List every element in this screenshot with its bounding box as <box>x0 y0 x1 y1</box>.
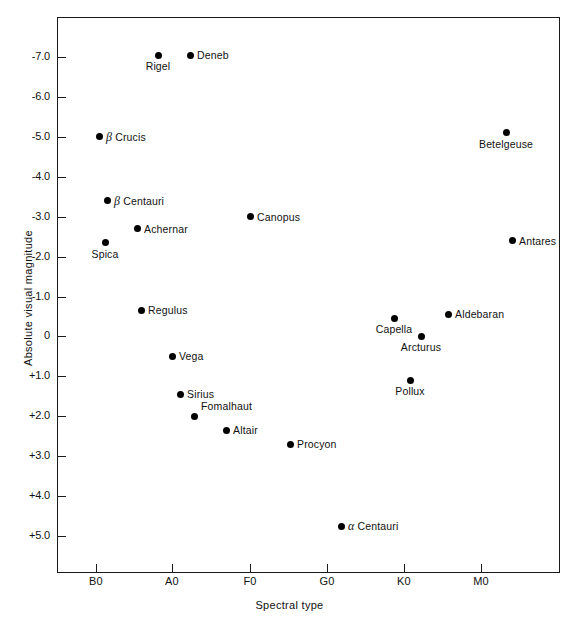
y-tick <box>57 97 66 98</box>
y-tick <box>57 177 66 178</box>
data-point-label: α Centauri <box>348 521 398 532</box>
y-tick-label: -4.0 <box>6 171 50 182</box>
y-tick <box>57 456 66 457</box>
data-point-label: Achernar <box>144 224 188 235</box>
data-point-label: Altair <box>233 425 258 436</box>
data-point <box>96 133 103 140</box>
y-axis-title: Absolute visual magnitude <box>22 230 34 366</box>
data-point <box>191 413 198 420</box>
y-tick <box>57 297 66 298</box>
x-tick <box>250 564 251 573</box>
x-tick <box>96 564 97 573</box>
data-point-label: Arcturus <box>401 342 441 353</box>
data-point <box>138 307 145 314</box>
y-tick <box>57 257 66 258</box>
data-point <box>338 523 345 530</box>
data-point-label: β Crucis <box>106 132 146 143</box>
y-tick-label: +2.0 <box>6 410 50 421</box>
x-tick-label: A0 <box>152 576 192 587</box>
data-point <box>445 311 452 318</box>
x-tick <box>172 564 173 573</box>
y-tick-label: +5.0 <box>6 530 50 541</box>
y-tick-label: -3.0 <box>6 211 50 222</box>
y-tick <box>57 376 66 377</box>
data-point-label: Canopus <box>257 212 300 223</box>
data-point <box>407 377 414 384</box>
data-point-label: Pollux <box>395 386 425 397</box>
data-point-label: Betelgeuse <box>479 139 533 150</box>
y-tick <box>57 217 66 218</box>
data-point-label: β Centauri <box>114 196 164 207</box>
x-tick-label: F0 <box>230 576 270 587</box>
data-point <box>391 315 398 322</box>
x-tick <box>327 564 328 573</box>
data-point-label: Capella <box>376 324 413 335</box>
data-point <box>177 391 184 398</box>
data-point <box>509 237 516 244</box>
data-point-label: Aldebaran <box>455 309 504 320</box>
data-point <box>287 441 294 448</box>
data-point <box>247 213 254 220</box>
y-tick <box>57 416 66 417</box>
data-point <box>134 225 141 232</box>
y-tick-label: -7.0 <box>6 51 50 62</box>
y-tick-label: +1.0 <box>6 370 50 381</box>
y-tick <box>57 536 66 537</box>
y-tick <box>57 57 66 58</box>
x-tick-label: G0 <box>307 576 347 587</box>
plot-area <box>57 17 560 573</box>
x-tick <box>481 564 482 573</box>
y-tick-label: -6.0 <box>6 91 50 102</box>
x-tick <box>404 564 405 573</box>
data-point <box>169 353 176 360</box>
data-point-label: Rigel <box>146 61 171 72</box>
data-point-label: Vega <box>179 351 204 362</box>
y-tick <box>57 496 66 497</box>
data-point-label: Deneb <box>197 50 229 61</box>
data-point <box>503 129 510 136</box>
x-tick-label: B0 <box>76 576 116 587</box>
data-point <box>418 333 425 340</box>
data-point <box>223 427 230 434</box>
y-tick <box>57 336 66 337</box>
y-tick-label: +4.0 <box>6 490 50 501</box>
data-point <box>155 52 162 59</box>
data-point-label: Spica <box>91 249 118 260</box>
data-point-label: Procyon <box>297 439 337 450</box>
y-tick-label: -5.0 <box>6 131 50 142</box>
data-point-label: Sirius <box>187 389 214 400</box>
hr-diagram-figure: -7.0-6.0-5.0-4.0-3.0-2.0-1.00+1.0+2.0+3.… <box>0 0 579 632</box>
data-point-label: Fomalhaut <box>201 401 252 412</box>
data-point <box>187 52 194 59</box>
data-point <box>104 197 111 204</box>
x-tick-label: K0 <box>384 576 424 587</box>
data-point <box>102 239 109 246</box>
x-tick-label: M0 <box>461 576 501 587</box>
data-point-label: Antares <box>519 236 556 247</box>
y-tick-label: +3.0 <box>6 450 50 461</box>
y-tick <box>57 137 66 138</box>
data-point-label: Regulus <box>148 305 188 316</box>
x-axis-title: Spectral type <box>0 599 579 611</box>
